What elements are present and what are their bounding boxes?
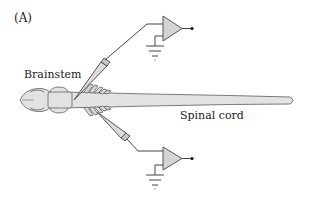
panel-label: (A) [14, 11, 32, 25]
lower-electrode [97, 112, 163, 151]
output-terminal-icon [190, 27, 193, 30]
lower-amplifier [146, 147, 194, 189]
ground-icon [146, 165, 164, 189]
spinal-cord [62, 92, 293, 108]
spinal-cord-label: Spinal cord [180, 109, 244, 122]
diagram-figure: (A) Brainstem Spinal cord [0, 0, 311, 203]
upper-amplifier [146, 16, 194, 60]
nerve-roots-lower [84, 106, 111, 116]
output-terminal-icon [190, 157, 193, 160]
ground-icon [146, 36, 164, 60]
brainstem [20, 87, 72, 113]
preparation-schematic [0, 0, 311, 203]
brainstem-label: Brainstem [24, 68, 82, 81]
